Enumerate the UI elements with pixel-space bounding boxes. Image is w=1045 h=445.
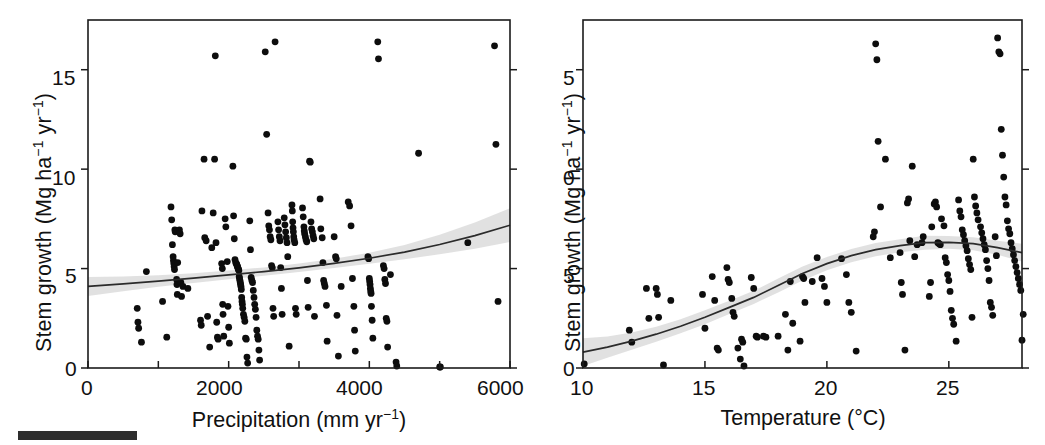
data-point — [873, 56, 880, 63]
data-point — [989, 312, 996, 319]
data-point — [626, 327, 633, 334]
data-point — [748, 274, 755, 281]
data-point — [709, 273, 716, 280]
data-point — [249, 279, 256, 286]
data-point — [331, 233, 338, 240]
data-point — [702, 325, 709, 332]
data-point — [728, 295, 735, 302]
data-point — [270, 305, 277, 312]
x-axis-title-right: Temperature (°C) — [583, 406, 1023, 431]
data-point — [926, 293, 933, 300]
y-axis-title-right-sup-a: −1 — [559, 140, 575, 156]
y-axis-title-text-c: ) — [32, 93, 56, 100]
data-point — [950, 321, 957, 328]
data-point — [887, 254, 894, 261]
x-tick-label-left-4000: 4000 — [336, 376, 383, 400]
x-axis-title-tail: ) — [399, 408, 406, 432]
data-point — [219, 265, 226, 272]
y-tick-label-right-15: 5 — [563, 66, 575, 90]
data-point — [212, 52, 219, 59]
data-point — [293, 311, 300, 318]
data-point — [992, 233, 999, 240]
data-point — [338, 283, 345, 290]
data-point — [289, 202, 296, 209]
data-point — [943, 259, 950, 266]
data-point — [809, 278, 816, 285]
data-point — [905, 196, 912, 203]
y-axis-title-sup-a: −1 — [30, 140, 46, 156]
data-point — [789, 320, 796, 327]
data-point — [256, 357, 263, 364]
data-point — [975, 216, 982, 223]
data-point — [956, 208, 963, 215]
data-point — [911, 253, 918, 260]
data-point — [334, 312, 341, 319]
data-point — [198, 322, 205, 329]
data-point — [955, 197, 962, 204]
data-point — [872, 40, 879, 47]
data-point — [351, 327, 358, 334]
data-point — [871, 228, 878, 235]
data-point — [969, 314, 976, 321]
data-point — [699, 291, 706, 298]
figure-root: Stem growth (Mg ha−1 yr−1) 15 10 5 0 0 2… — [0, 0, 1045, 445]
temperature-panel: Stem growth (Mg ha−1 yr−1) 5 0 5 0 10 15… — [523, 0, 1045, 445]
data-point — [999, 152, 1006, 159]
fit-line — [583, 242, 1022, 352]
data-point — [978, 229, 985, 236]
data-point — [278, 285, 285, 292]
data-point — [244, 354, 251, 361]
data-point — [988, 304, 995, 311]
data-point — [171, 266, 178, 273]
data-point — [980, 235, 987, 242]
data-point — [253, 314, 260, 321]
data-point — [289, 218, 296, 225]
data-point — [319, 234, 326, 241]
y-tick-label-left-10: 10 — [52, 166, 75, 190]
data-point — [384, 318, 391, 325]
data-point — [899, 291, 906, 298]
data-point — [224, 258, 231, 265]
data-point — [230, 212, 237, 219]
data-point — [307, 159, 314, 166]
scale-bar — [18, 431, 137, 440]
data-point — [877, 204, 884, 211]
data-point — [415, 150, 422, 157]
data-point — [845, 299, 852, 306]
data-point — [206, 344, 213, 351]
data-point — [211, 156, 218, 163]
data-point — [723, 264, 730, 271]
data-point — [655, 314, 662, 321]
data-point — [947, 288, 954, 295]
data-point — [949, 315, 956, 322]
data-point — [944, 271, 951, 278]
data-point — [267, 236, 274, 243]
data-point — [784, 347, 791, 354]
data-point — [823, 299, 830, 306]
data-point — [244, 360, 251, 367]
data-point — [300, 213, 307, 220]
data-point — [1020, 311, 1027, 318]
data-point — [982, 246, 989, 253]
data-point — [654, 291, 661, 298]
data-point — [346, 203, 353, 210]
data-point — [797, 338, 804, 345]
y-tick-label-right-5: 5 — [563, 264, 575, 288]
data-point — [225, 324, 232, 331]
data-point — [819, 275, 826, 282]
data-point — [220, 333, 227, 340]
confidence-band — [88, 208, 510, 296]
data-point — [266, 226, 273, 233]
data-point — [350, 303, 357, 310]
data-point — [335, 353, 342, 360]
data-point — [252, 306, 259, 313]
data-point — [368, 290, 375, 297]
data-point — [349, 275, 356, 282]
data-point — [1008, 239, 1015, 246]
data-point — [368, 303, 375, 310]
data-point — [737, 356, 744, 363]
data-point — [920, 233, 927, 240]
data-point — [775, 333, 782, 340]
data-point — [1006, 230, 1013, 237]
data-point — [734, 345, 741, 352]
